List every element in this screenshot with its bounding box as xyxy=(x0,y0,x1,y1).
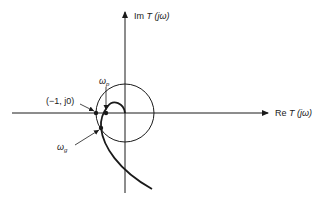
nyquist-curve xyxy=(101,102,152,189)
gain-crossover-label: ωg xyxy=(57,142,68,153)
critical-point-label: (−1, j0) xyxy=(46,96,74,106)
imaginary-axis-label: Im T (jω) xyxy=(134,11,170,21)
critical-point xyxy=(94,111,98,115)
phase-crossover-label: ωp xyxy=(99,76,110,87)
critical-point-leader xyxy=(80,104,94,111)
phase-crossover-point xyxy=(104,111,108,115)
gain-crossover-leader xyxy=(75,130,99,145)
real-axis-label: Re T (jω) xyxy=(275,108,312,118)
gain-crossover-point xyxy=(99,126,103,130)
nyquist-diagram: Im T (jω) Re T (jω) (−1, j0) ωp ωg xyxy=(0,0,325,202)
